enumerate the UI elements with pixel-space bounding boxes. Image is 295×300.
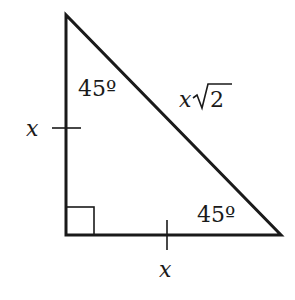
hypotenuse-label: x 2 xyxy=(179,84,232,112)
hypotenuse-variable: x xyxy=(179,87,192,112)
right-angle-marker xyxy=(66,207,94,235)
triangle-diagram: 45º 45º x x x 2 xyxy=(0,0,295,300)
triangle xyxy=(66,15,281,235)
left-leg-label: x xyxy=(26,116,39,141)
top-angle-label: 45º xyxy=(78,76,116,101)
hypotenuse-radicand: 2 xyxy=(210,87,224,112)
bottom-leg-label: x xyxy=(159,257,172,282)
bottom-right-angle-label: 45º xyxy=(197,202,235,227)
